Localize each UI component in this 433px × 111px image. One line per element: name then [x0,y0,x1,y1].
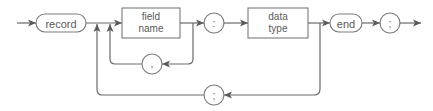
field-name-label-line1: field [142,11,160,22]
comma-label: , [151,58,154,69]
connector-record-to-field-name [86,20,122,27]
data-type-node: data type [248,8,308,38]
semicolon-loop-label: ; [213,90,216,101]
record-label: record [45,18,76,30]
entry-arrow [17,20,36,27]
connector-colon-to-data-type [224,20,248,27]
colon-label: : [213,18,216,29]
end-label: end [337,18,355,30]
semicolon-end-label: ; [389,18,392,29]
data-type-label-line2: type [269,23,288,34]
field-name-node: field name [122,8,180,38]
data-type-label-line1: data [268,11,288,22]
record-keyword-node: record [36,14,86,32]
connector-field-name-to-colon [180,20,204,27]
record-syntax-diagram: record field name : data type end [0,0,433,111]
exit-arrow [400,20,421,27]
end-keyword-node: end [330,14,362,32]
connector-data-type-to-end [308,20,330,27]
field-name-label-line2: name [138,23,163,34]
connector-end-to-semicolon [362,20,380,27]
semicolon-end-symbol-node: ; [380,13,400,33]
comma-symbol-node: , [142,54,162,74]
colon-symbol-node: : [204,13,224,33]
semicolon-loop-symbol-node: ; [204,85,224,105]
